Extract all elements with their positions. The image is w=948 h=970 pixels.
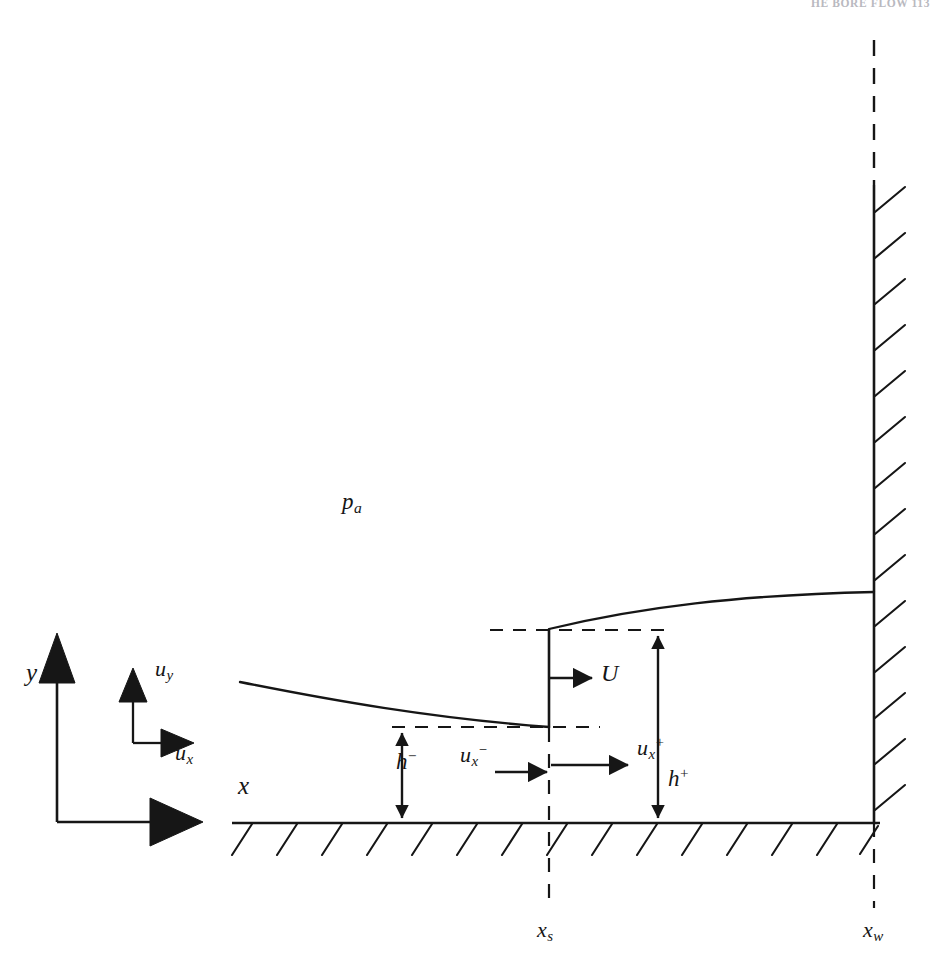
- label-axis-x: x: [238, 773, 249, 798]
- diagram-canvas: [0, 0, 948, 970]
- key-uy-arrowhead: [119, 668, 147, 702]
- bed-hatching: [232, 824, 878, 855]
- label-station-wall: xw: [863, 919, 883, 944]
- label-ambient-pressure: pa: [342, 490, 362, 516]
- free-surface-downstream: [549, 592, 874, 629]
- wall-hatching: [875, 187, 905, 810]
- label-depth-upstream: h−: [396, 748, 417, 773]
- free-surface-group: [240, 592, 874, 728]
- figure-container: HE BORE FLOW 113: [0, 0, 948, 970]
- label-axis-y: y: [26, 660, 37, 685]
- free-surface-upstream: [240, 682, 549, 727]
- bed-group: [232, 823, 880, 855]
- label-depth-downstream: h+: [668, 765, 689, 790]
- label-velocity-ux: ux: [175, 742, 193, 767]
- label-velocity-upstream: ux−: [460, 742, 487, 769]
- axis-x-arrowhead: [150, 798, 203, 846]
- label-bore-speed: U: [601, 661, 618, 685]
- axis-y-arrowhead: [39, 633, 75, 683]
- wall-group: [874, 40, 905, 823]
- reference-levels-group: [392, 630, 666, 727]
- label-station-shock: xs: [537, 919, 553, 944]
- station-lines-group: [549, 728, 874, 908]
- label-velocity-downstream: ux+: [637, 735, 664, 762]
- label-velocity-uy: uy: [155, 658, 173, 683]
